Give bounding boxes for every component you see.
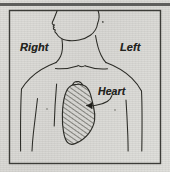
clavicle-left-side [86, 66, 108, 69]
jawline [56, 24, 97, 41]
neck-front [56, 40, 63, 63]
shoulder-right-side [22, 63, 57, 89]
anatomy-illustration [0, 0, 170, 172]
sternal-notch [78, 65, 85, 66]
figure-panel: Right Left Heart [0, 0, 170, 172]
torso-side-left [142, 91, 143, 151]
heart-vessel-nub [73, 81, 83, 85]
torso-side-right [21, 89, 22, 151]
nipple-mark-right [46, 108, 48, 110]
neck-back [96, 36, 107, 63]
nipple-mark-left [114, 109, 116, 111]
heart-shape [62, 84, 94, 144]
head-back [98, 11, 99, 24]
label-heart: Heart [98, 85, 125, 97]
head-profile [52, 11, 57, 33]
label-right: Right [20, 41, 49, 53]
arm-crease-right [32, 99, 38, 152]
clavicle-right-side [56, 66, 78, 69]
ear-dot [102, 21, 104, 23]
midline-hint [54, 84, 56, 126]
arm-crease-left [126, 100, 128, 151]
label-left: Left [120, 41, 141, 53]
